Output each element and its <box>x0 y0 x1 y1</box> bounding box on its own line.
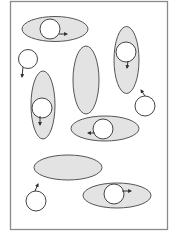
circle-in-top-horizontal <box>40 19 60 39</box>
circle-in-middle-horizontal <box>93 119 113 139</box>
ellipse-circle-diagram <box>0 0 177 237</box>
ellipse-middle-vertical <box>73 46 99 114</box>
circle-free-left <box>19 50 38 69</box>
circle-in-left-vertical <box>32 98 52 118</box>
circle-free-bottom-left <box>26 191 46 211</box>
ellipse-lower-left-horizontal <box>34 155 102 180</box>
circle-free-right <box>135 96 155 116</box>
circle-in-bottom-right-horizontal <box>104 184 124 204</box>
circle-in-right-vertical <box>116 42 136 62</box>
